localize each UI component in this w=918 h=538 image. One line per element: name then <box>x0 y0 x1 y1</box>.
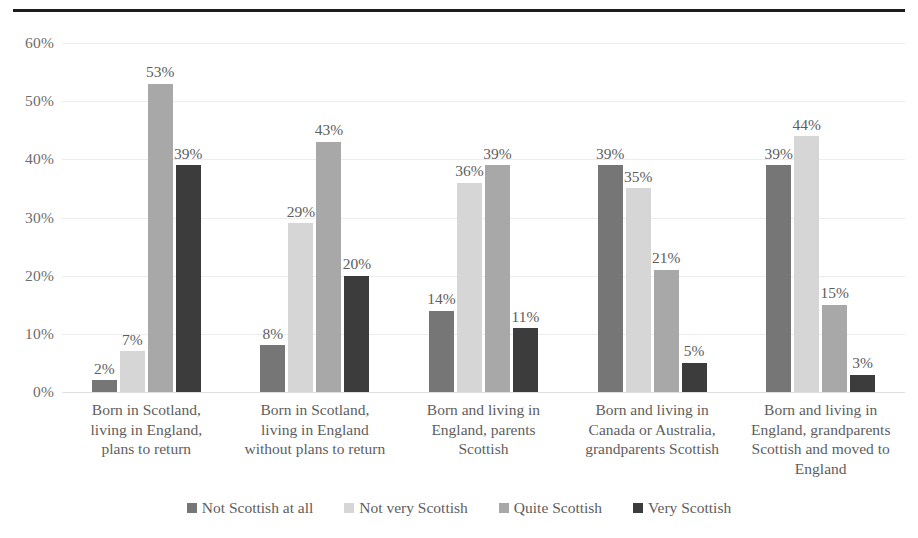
bar-value-label: 21% <box>652 250 680 266</box>
bar-group: 2%7%53%39% <box>62 43 231 392</box>
bar-value-label: 14% <box>427 291 455 307</box>
bar[interactable] <box>485 165 510 392</box>
x-axis-category-labels: Born in Scotland,living in England,plans… <box>62 400 905 490</box>
bar-slot: 14% <box>427 43 455 392</box>
category-label-line: Born in Scotland, <box>223 400 408 420</box>
bar-slot: 11% <box>511 43 539 392</box>
y-axis-tick-label: 60% <box>8 35 54 51</box>
bar-value-label: 53% <box>146 64 174 80</box>
bar[interactable] <box>92 380 117 392</box>
bar[interactable] <box>260 345 285 392</box>
bar[interactable] <box>513 328 538 392</box>
x-axis-category-label: Born in Scotland,living in Englandwithou… <box>223 400 408 459</box>
bar-value-label: 43% <box>315 122 343 138</box>
bar-groups: 2%7%53%39%8%29%43%20%14%36%39%11%39%35%2… <box>62 43 905 392</box>
bar-slot: 39% <box>765 43 793 392</box>
category-label-line: Born and living in <box>728 400 913 420</box>
bar-value-label: 3% <box>852 355 873 371</box>
y-axis-tick-label: 50% <box>8 93 54 109</box>
bar[interactable] <box>429 311 454 392</box>
bar[interactable] <box>766 165 791 392</box>
category-label-line: Scottish and moved to <box>728 439 913 459</box>
y-axis-tick-label: 20% <box>8 268 54 284</box>
x-axis-category-label: Born and living inEngland, parentsScotti… <box>391 400 576 459</box>
x-axis-category-label: Born in Scotland,living in England,plans… <box>54 400 239 459</box>
bar[interactable] <box>654 270 679 392</box>
category-label-line: Born in Scotland, <box>54 400 239 420</box>
bar-slot: 39% <box>483 43 511 392</box>
bar[interactable] <box>316 142 341 392</box>
bar-slot: 53% <box>146 43 174 392</box>
category-label-line: Scottish <box>391 439 576 459</box>
bar[interactable] <box>288 223 313 392</box>
bar-group: 39%44%15%3% <box>736 43 905 392</box>
bar-value-label: 20% <box>343 256 371 272</box>
bar[interactable] <box>682 363 707 392</box>
category-label-line: England, grandparents <box>728 420 913 440</box>
category-label-line: Canada or Australia, <box>560 420 745 440</box>
bar-value-label: 39% <box>174 146 202 162</box>
category-label-line: England <box>728 459 913 479</box>
bar-group: 8%29%43%20% <box>231 43 400 392</box>
bar-value-label: 39% <box>483 146 511 162</box>
legend-item[interactable]: Not Scottish at all <box>187 500 314 516</box>
category-label-line: England, parents <box>391 420 576 440</box>
y-axis-tick-label: 30% <box>8 210 54 226</box>
legend-label: Very Scottish <box>648 500 731 516</box>
bar-slot: 21% <box>652 43 680 392</box>
bar-slot: 5% <box>680 43 708 392</box>
y-axis-tick-label: 40% <box>8 151 54 167</box>
legend-item[interactable]: Not very Scottish <box>344 500 468 516</box>
bar[interactable] <box>626 188 651 392</box>
bar-value-label: 5% <box>684 343 705 359</box>
bar-value-label: 15% <box>820 285 848 301</box>
bar[interactable] <box>120 351 145 392</box>
category-label-line: Born and living in <box>560 400 745 420</box>
bar[interactable] <box>598 165 623 392</box>
bar[interactable] <box>794 136 819 392</box>
bar[interactable] <box>344 276 369 392</box>
x-axis-category-label: Born and living inEngland, grandparentsS… <box>728 400 913 478</box>
axis-baseline <box>62 392 905 393</box>
legend-label: Not very Scottish <box>359 500 468 516</box>
category-label-line: without plans to return <box>223 439 408 459</box>
legend-item[interactable]: Very Scottish <box>633 500 731 516</box>
bar-group: 14%36%39%11% <box>399 43 568 392</box>
bar-group: 39%35%21%5% <box>568 43 737 392</box>
bar[interactable] <box>148 84 173 392</box>
bar-value-label: 39% <box>596 146 624 162</box>
bar[interactable] <box>176 165 201 392</box>
bar-slot: 35% <box>624 43 652 392</box>
bar-value-label: 7% <box>122 332 143 348</box>
bar-value-label: 36% <box>455 163 483 179</box>
bar-slot: 44% <box>793 43 821 392</box>
bar-slot: 7% <box>118 43 146 392</box>
bar-value-label: 8% <box>263 326 284 342</box>
legend-swatch-icon <box>499 503 509 513</box>
category-label-line: grandparents Scottish <box>560 439 745 459</box>
bar-chart: 60%50%40%30%20%10%0% 2%7%53%39%8%29%43%2… <box>0 0 918 538</box>
bar[interactable] <box>457 183 482 392</box>
bar-value-label: 44% <box>792 117 820 133</box>
bar-slot: 20% <box>343 43 371 392</box>
bar[interactable] <box>822 305 847 392</box>
legend-item[interactable]: Quite Scottish <box>499 500 602 516</box>
y-axis-tick-label: 10% <box>8 326 54 342</box>
bar-slot: 39% <box>174 43 202 392</box>
legend-swatch-icon <box>187 503 197 513</box>
legend-swatch-icon <box>344 503 354 513</box>
bar-slot: 8% <box>259 43 287 392</box>
category-label-line: living in England <box>223 420 408 440</box>
bar-slot: 39% <box>596 43 624 392</box>
x-axis-category-label: Born and living inCanada or Australia,gr… <box>560 400 745 459</box>
legend-label: Not Scottish at all <box>202 500 314 516</box>
bar-value-label: 2% <box>94 361 115 377</box>
bar-value-label: 39% <box>764 146 792 162</box>
bar-slot: 2% <box>90 43 118 392</box>
bar-slot: 36% <box>455 43 483 392</box>
chart-legend: Not Scottish at allNot very ScottishQuit… <box>0 500 918 516</box>
bar-slot: 15% <box>821 43 849 392</box>
bar[interactable] <box>850 375 875 392</box>
category-label-line: plans to return <box>54 439 239 459</box>
bar-value-label: 11% <box>512 309 540 325</box>
